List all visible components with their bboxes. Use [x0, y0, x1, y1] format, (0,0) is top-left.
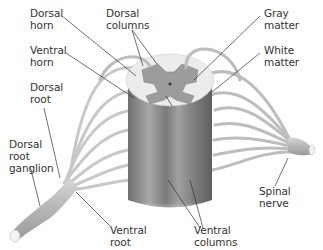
label-dorsal-root: Dorsal root: [30, 81, 63, 105]
spinal-cord-body: [120, 54, 220, 220]
label-dorsal-horn: Dorsal horn: [30, 7, 63, 31]
label-white-matter: White matter: [264, 44, 299, 68]
label-dorsal-root-ganglion: Dorsal root ganglion: [9, 138, 54, 174]
spinal-cord-diagram: Dorsal horn Dorsal columns Gray matter V…: [0, 0, 323, 250]
dorsal-root-ganglion-shape: [10, 178, 78, 242]
label-ventral-horn: Ventral horn: [30, 44, 67, 68]
label-gray-matter: Gray matter: [264, 7, 299, 31]
label-ventral-columns: Ventral columns: [194, 224, 237, 248]
label-ventral-root: Ventral root: [110, 224, 147, 248]
label-dorsal-columns: Dorsal columns: [106, 7, 149, 31]
diagram-artwork: [0, 0, 323, 250]
spinal-nerve-shape: [288, 137, 315, 155]
label-spinal-nerve: Spinal nerve: [259, 185, 291, 209]
